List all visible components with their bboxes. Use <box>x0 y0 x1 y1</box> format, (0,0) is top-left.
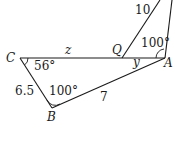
label-angle-C: 56° <box>34 59 55 73</box>
label-angle-B: 100° <box>49 84 78 98</box>
angle-arc-A-upper <box>156 49 164 58</box>
label-side-10: 10 <box>135 3 150 17</box>
label-point-C: C <box>6 51 15 65</box>
label-side-z: z <box>64 43 72 57</box>
label-side-CB: 6.5 <box>15 84 34 98</box>
label-side-BA: 7 <box>100 90 108 104</box>
label-point-Q: Q <box>112 43 122 57</box>
angle-arc-C <box>25 58 29 65</box>
label-angle-A-upper: 100° <box>141 36 170 50</box>
angle-arc-B <box>47 100 60 105</box>
label-angle-y: y <box>132 55 140 69</box>
label-point-A: A <box>163 56 173 70</box>
geometry-diagram: C 56° z Q y A 100° 10 6.5 100° 7 B <box>0 0 175 144</box>
label-point-B: B <box>46 110 56 124</box>
segment-BA <box>52 58 165 108</box>
